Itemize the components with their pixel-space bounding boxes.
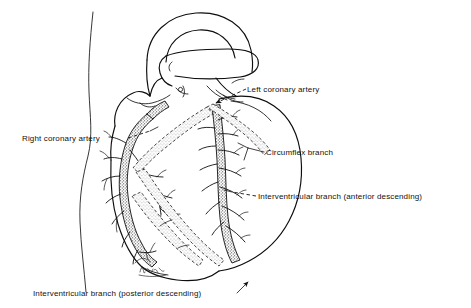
left-atrial-appendage xyxy=(176,86,188,97)
coronary-artery-diagram: Left coronary artery Right coronary arte… xyxy=(0,0,471,308)
leader-interventricular-anterior xyxy=(232,192,256,196)
label-interventricular-branch-anterior: Interventricular branch (anterior descen… xyxy=(258,192,422,201)
right-coronary-artery xyxy=(100,101,180,267)
superior-vena-cava xyxy=(150,78,162,96)
leader-interventricular-posterior xyxy=(237,282,248,293)
pulmonary-trunk xyxy=(159,49,258,86)
label-circumflex-branch: Circumflex branch xyxy=(266,148,333,157)
label-left-coronary-artery: Left coronary artery xyxy=(247,85,319,94)
label-right-coronary-artery: Right coronary artery xyxy=(22,134,100,143)
label-interventricular-branch-posterior: Interventricular branch (posterior desce… xyxy=(33,289,201,298)
diagram-canvas: Left coronary artery Right coronary arte… xyxy=(0,0,471,308)
thorax-outline xyxy=(80,12,93,292)
heart-base xyxy=(207,78,243,102)
aortic-arch xyxy=(147,13,253,96)
